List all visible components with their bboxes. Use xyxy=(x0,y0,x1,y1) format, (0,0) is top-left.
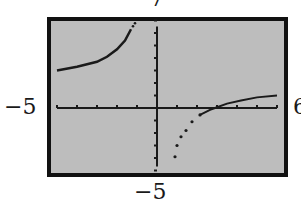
graph-plot xyxy=(0,0,301,208)
right-branch xyxy=(173,96,277,159)
left-branch xyxy=(57,29,131,70)
curves xyxy=(57,22,277,158)
axes xyxy=(57,21,277,171)
